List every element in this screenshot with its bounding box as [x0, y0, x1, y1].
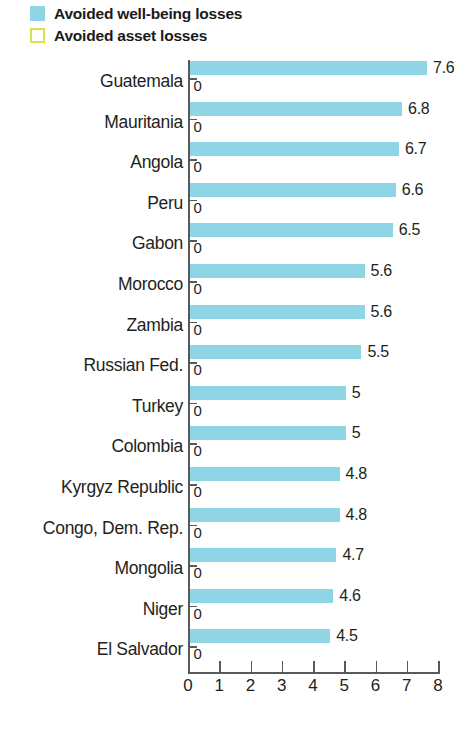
bar-well-being [190, 183, 396, 197]
bar-asset-value-label: 0 [194, 402, 202, 419]
bar-row: Niger4.60 [0, 586, 458, 627]
bar-row: Kyrgyz Republic4.80 [0, 464, 458, 505]
bar-row: Mongolia4.70 [0, 545, 458, 586]
bar-value-label: 6.7 [405, 140, 426, 158]
x-axis-tick [438, 661, 440, 674]
legend-item-asset: Avoided asset losses [30, 26, 242, 45]
bar-well-being [190, 142, 399, 156]
bar-well-being [190, 386, 346, 400]
bar-value-label: 4.6 [339, 587, 360, 605]
bar-group: 50 [190, 423, 458, 464]
bar-value-label: 4.5 [336, 627, 357, 645]
bar-asset-value-label: 0 [194, 239, 202, 256]
bar-value-label: 5 [352, 384, 361, 402]
bar-asset-value-label: 0 [194, 564, 202, 581]
bar-asset-value-label: 0 [194, 361, 202, 378]
bar-well-being [190, 589, 334, 603]
x-axis-tick-label: 8 [418, 676, 458, 696]
bar-rows: Guatemala7.60Mauritania6.80Angola6.70Per… [0, 58, 458, 667]
bar-asset-value-label: 0 [194, 199, 202, 216]
bar-row: Congo, Dem. Rep.4.80 [0, 505, 458, 546]
bar-group: 5.60 [190, 261, 458, 302]
bar-asset-value-label: 0 [194, 158, 202, 175]
category-label: Congo, Dem. Rep. [0, 518, 183, 539]
chart-legend: Avoided well-being losses Avoided asset … [30, 4, 242, 45]
bar-asset-value-label: 0 [194, 280, 202, 297]
bar-row: Morocco5.60 [0, 261, 458, 302]
bar-asset-value-label: 0 [194, 118, 202, 135]
bar-group: 5.60 [190, 302, 458, 343]
bar-value-label: 4.8 [346, 465, 367, 483]
bar-value-label: 5 [352, 424, 361, 442]
category-label: Mongolia [0, 558, 183, 579]
category-label: Morocco [0, 274, 183, 295]
category-label: Colombia [0, 436, 183, 457]
category-label: Mauritania [0, 112, 183, 133]
category-label: Kyrgyz Republic [0, 477, 183, 498]
bar-well-being [190, 264, 365, 278]
legend-swatch-filled-icon [30, 6, 45, 21]
bar-well-being [190, 508, 340, 522]
category-label: Gabon [0, 233, 183, 254]
bar-well-being [190, 548, 337, 562]
bar-group: 7.60 [190, 58, 458, 99]
bar-asset-value-label: 0 [194, 605, 202, 622]
bar-well-being [190, 629, 331, 643]
bar-well-being [190, 467, 340, 481]
category-label: Peru [0, 193, 183, 214]
bar-chart-plot: Guatemala7.60Mauritania6.80Angola6.70Per… [0, 58, 458, 678]
bar-asset-value-label: 0 [194, 442, 202, 459]
bar-value-label: 5.6 [371, 303, 392, 321]
bar-group: 6.70 [190, 139, 458, 180]
category-label: El Salvador [0, 639, 183, 660]
x-axis-tick-labels: 012345678 [0, 676, 458, 700]
category-label: Guatemala [0, 71, 183, 92]
bar-row: Guatemala7.60 [0, 58, 458, 99]
category-label: Zambia [0, 315, 183, 336]
bar-asset-value-label: 0 [194, 321, 202, 338]
category-label: Turkey [0, 396, 183, 417]
bar-asset-value-label: 0 [194, 483, 202, 500]
category-label: Angola [0, 152, 183, 173]
bar-value-label: 5.6 [371, 262, 392, 280]
bar-row: Gabon6.50 [0, 220, 458, 261]
bar-value-label: 4.8 [346, 506, 367, 524]
bar-group: 4.80 [190, 464, 458, 505]
bar-row: Zambia5.60 [0, 302, 458, 343]
legend-item-well-being: Avoided well-being losses [30, 4, 242, 23]
bar-value-label: 6.6 [402, 181, 423, 199]
bar-well-being [190, 305, 365, 319]
bar-row: Mauritania6.80 [0, 99, 458, 140]
bar-group: 6.60 [190, 180, 458, 221]
bar-group: 50 [190, 383, 458, 424]
bar-well-being [190, 426, 346, 440]
bar-row: Peru6.60 [0, 180, 458, 221]
bar-well-being [190, 61, 428, 75]
bar-well-being [190, 223, 393, 237]
bar-value-label: 4.7 [342, 546, 363, 564]
bar-row: Angola6.70 [0, 139, 458, 180]
category-label: Niger [0, 599, 183, 620]
bar-group: 4.60 [190, 586, 458, 627]
legend-label-asset: Avoided asset losses [54, 27, 207, 45]
bar-group: 6.80 [190, 99, 458, 140]
bar-group: 4.70 [190, 545, 458, 586]
legend-label-well-being: Avoided well-being losses [54, 5, 242, 23]
bar-row: Russian Fed.5.50 [0, 342, 458, 383]
category-label: Russian Fed. [0, 355, 183, 376]
bar-row: Turkey50 [0, 383, 458, 424]
bar-value-label: 5.5 [367, 343, 388, 361]
bar-group: 4.80 [190, 505, 458, 546]
bar-row: Colombia50 [0, 423, 458, 464]
bar-asset-value-label: 0 [194, 77, 202, 94]
x-axis-line [188, 672, 438, 674]
bar-well-being [190, 345, 362, 359]
legend-swatch-outline-icon [30, 28, 45, 43]
bar-value-label: 6.5 [399, 221, 420, 239]
bar-group: 6.50 [190, 220, 458, 261]
bar-group: 5.50 [190, 342, 458, 383]
bar-value-label: 6.8 [408, 100, 429, 118]
bar-well-being [190, 102, 403, 116]
bar-value-label: 7.6 [433, 59, 454, 77]
bar-asset-value-label: 0 [194, 524, 202, 541]
